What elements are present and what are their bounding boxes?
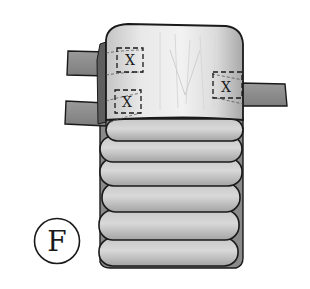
x-mark: X [122, 94, 132, 110]
x-mark: X [221, 79, 231, 95]
roll-5 [99, 210, 239, 240]
x-mark: X [125, 52, 135, 68]
figure-label-letter: F [47, 225, 66, 258]
illustration: X X X F [0, 0, 310, 289]
figure-label: F [35, 219, 80, 264]
roll-4 [102, 183, 240, 212]
roll-6 [99, 238, 238, 266]
tab-right [240, 83, 287, 106]
roll-1 [106, 119, 243, 141]
stacked-rolls [99, 119, 243, 266]
figure-canvas: X X X F [0, 0, 310, 289]
pad-side-shadow [97, 42, 106, 124]
